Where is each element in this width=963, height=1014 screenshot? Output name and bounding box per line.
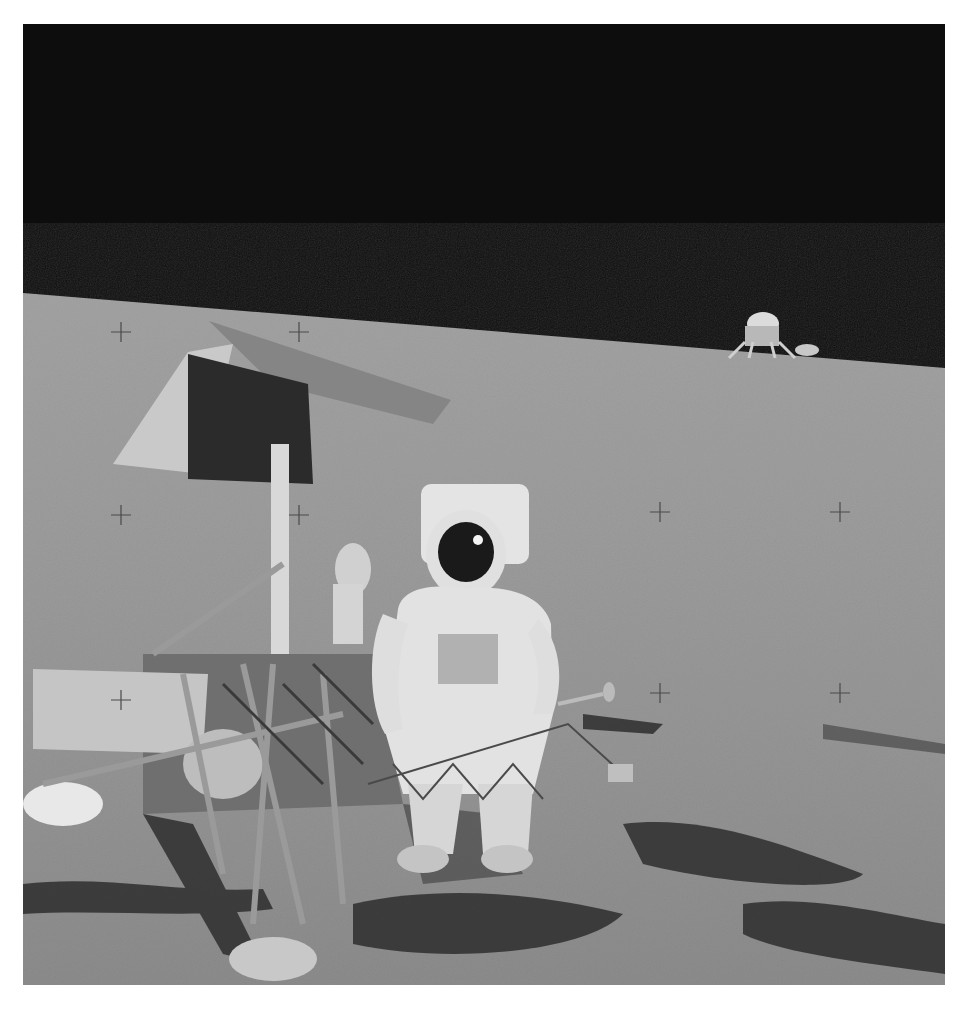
- lunar-surface-photo: [23, 24, 945, 985]
- torso: [383, 586, 553, 794]
- footpad: [229, 937, 317, 981]
- left-boot: [397, 845, 449, 873]
- mast: [271, 444, 289, 654]
- photo-canvas: [23, 24, 945, 985]
- visor: [438, 522, 494, 582]
- right-boot: [481, 845, 533, 873]
